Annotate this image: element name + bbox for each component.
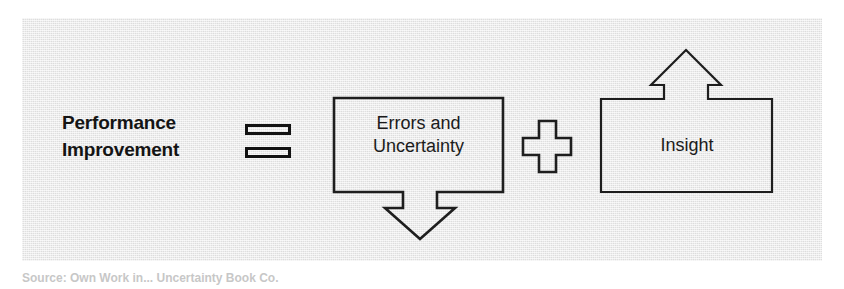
- errors-line-1: Errors and: [334, 112, 503, 135]
- figure-canvas: Performance Improvement Errors and Uncer…: [0, 0, 844, 289]
- plus-sign-icon: [523, 121, 571, 172]
- insight-box-with-up-arrow: [601, 50, 772, 192]
- errors-line-2: Uncertainty: [334, 135, 503, 158]
- figure-caption-text: Source: Own Work in... Uncertainty Book …: [22, 273, 442, 285]
- errors-uncertainty-label: Errors and Uncertainty: [334, 112, 503, 159]
- figure-caption: Source: Own Work in... Uncertainty Book …: [22, 273, 442, 289]
- insight-line-1: Insight: [601, 134, 773, 157]
- insight-label: Insight: [601, 134, 773, 157]
